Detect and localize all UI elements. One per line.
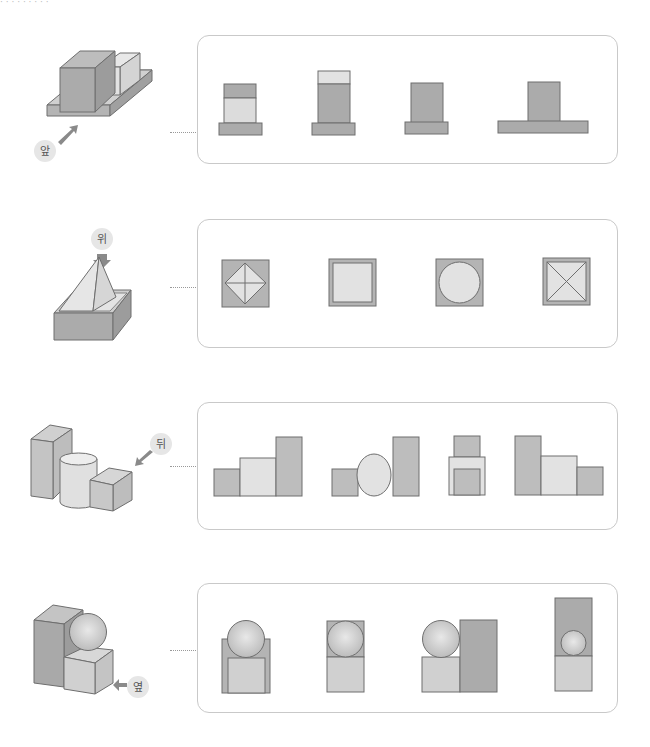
option-back-2[interactable] (332, 437, 419, 496)
option-side-1[interactable] (222, 621, 270, 694)
solid-figure-front: 앞 (20, 45, 190, 170)
option-front-3[interactable] (405, 83, 448, 134)
direction-label-back: 뒤 (156, 438, 166, 451)
option-side-2[interactable] (327, 621, 364, 692)
question-row-front: 앞 (0, 35, 650, 170)
option-top-2[interactable] (329, 259, 376, 306)
solid-figure-top: 위 (20, 217, 190, 347)
option-front-4[interactable] (498, 82, 588, 133)
direction-label-front: 앞 (40, 145, 50, 158)
option-top-1[interactable] (222, 260, 269, 307)
option-top-4[interactable] (543, 258, 590, 305)
connector-dots (170, 466, 196, 467)
connector-dots (170, 650, 196, 651)
option-back-1[interactable] (214, 437, 302, 496)
answer-panel-front (197, 35, 618, 164)
direction-label-top: 위 (97, 233, 107, 246)
option-top-3[interactable] (436, 259, 483, 306)
answer-panel-side (197, 583, 618, 713)
answer-panel-top (197, 219, 618, 348)
option-side-3[interactable] (422, 620, 497, 692)
option-front-2[interactable] (312, 71, 355, 135)
option-back-3[interactable] (449, 436, 485, 495)
question-row-side: 옆 (0, 575, 650, 725)
connector-dots (170, 132, 196, 133)
option-side-4[interactable] (555, 598, 592, 691)
question-row-top: 위 (0, 217, 650, 352)
direction-label-side: 옆 (133, 681, 143, 694)
connector-dots (170, 287, 196, 288)
solid-figure-back: 뒤 (20, 420, 190, 520)
option-front-1[interactable] (219, 84, 262, 135)
cropped-header-text: · · · · · · · · · (0, 0, 250, 5)
question-row-back: 뒤 (0, 400, 650, 535)
option-back-4[interactable] (515, 436, 603, 495)
solid-figure-side: 옆 (20, 595, 190, 705)
answer-panel-back (197, 402, 618, 530)
